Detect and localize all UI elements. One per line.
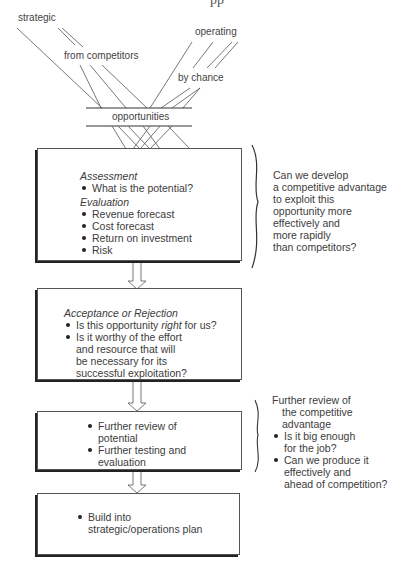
note-line: to exploit this	[273, 193, 387, 205]
source-label-operating: operating	[195, 26, 237, 37]
section-heading: Evaluation	[80, 196, 193, 208]
list-item: Is it worthy of the effort and resource …	[64, 331, 217, 379]
note-line: opportunity more	[273, 205, 387, 217]
note-line: advantage	[272, 418, 387, 430]
list-item: Revenue forecast	[80, 208, 193, 220]
note-line: effectively and	[273, 217, 387, 229]
source-label-from-competitors: from competitors	[64, 50, 138, 61]
source-label-by-chance: by chance	[178, 72, 224, 83]
list-item: Can we produce it effectively and ahead …	[272, 454, 387, 490]
list-item: Risk	[80, 244, 193, 256]
side-note-competitive-advantage: Can we develop a competitive advantage t…	[273, 169, 387, 253]
note-line: the competitive	[272, 406, 387, 418]
side-note-further-review: Further review of the competitive advant…	[272, 394, 387, 490]
stage-acceptance-box: Acceptance or Rejection Is this opportun…	[37, 288, 242, 380]
list-item: Further review of potential	[86, 420, 186, 444]
stage-assessment-box: Assessment What is the potential? Evalua…	[37, 148, 242, 261]
list-item: Is this opportunity right for us?	[64, 319, 217, 331]
source-label-strategic: strategic	[18, 12, 56, 23]
note-line: Can we develop	[273, 169, 387, 181]
list-item: Build into strategic/operations plan	[76, 511, 202, 535]
list-item: What is the potential?	[80, 182, 193, 194]
section-heading: Assessment	[80, 170, 193, 182]
note-line: a competitive advantage	[273, 181, 387, 193]
list-item: Further testing and evaluation	[86, 444, 186, 468]
note-line: than competitors?	[273, 241, 387, 253]
note-line: Further review of	[272, 394, 387, 406]
note-line: more rapidly	[273, 229, 387, 241]
list-item: Is it big enough for the job?	[272, 430, 387, 454]
list-item: Cost forecast	[80, 220, 193, 232]
stage-build-plan-box: Build into strategic/operations plan	[37, 493, 240, 555]
section-heading: Acceptance or Rejection	[64, 307, 217, 319]
list-item: Return on investment	[80, 232, 193, 244]
funnel-label-opportunities: opportunities	[112, 111, 169, 122]
stage-further-review-box: Further review of potential Further test…	[37, 411, 242, 470]
